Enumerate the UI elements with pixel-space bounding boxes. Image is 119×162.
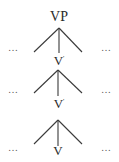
ellipsis-left-3: … <box>8 143 18 153</box>
branch-left <box>34 70 58 93</box>
ellipsis-right-1: … <box>101 43 111 53</box>
branch-right <box>58 70 82 93</box>
ellipsis-right-3: … <box>101 143 111 153</box>
branch-right <box>58 120 82 144</box>
branch-group-2 <box>34 70 82 96</box>
prime-mark: ' <box>63 54 64 62</box>
node-v-bar-2: V' <box>54 97 65 110</box>
tree-branches <box>0 0 119 162</box>
branch-left <box>34 28 59 52</box>
ellipsis-left-1: … <box>8 43 18 53</box>
branch-right <box>59 28 82 52</box>
syntax-tree-diagram: VP … … V' … … V' … … V <box>0 0 119 162</box>
node-v: V <box>53 144 62 157</box>
node-label: V <box>54 53 63 68</box>
prime-mark: ' <box>63 97 64 105</box>
node-v-bar-1: V' <box>54 54 65 67</box>
node-vp: VP <box>50 10 68 24</box>
ellipsis-left-2: … <box>8 85 18 95</box>
node-label: V <box>54 96 63 111</box>
branch-group-1 <box>34 28 82 53</box>
ellipsis-right-2: … <box>101 85 111 95</box>
branch-left <box>34 120 58 144</box>
